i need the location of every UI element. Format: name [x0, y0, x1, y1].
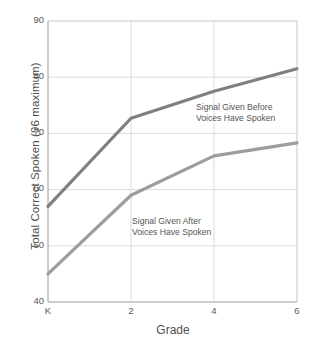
annotation-after-line1: Signal Given After: [132, 216, 201, 226]
line-chart: Total Correct Spoken (96 maximum) 90 80 …: [0, 0, 310, 345]
annotation-after-line2: Voices Have Spoken: [132, 227, 211, 237]
x-axis-title: Grade: [48, 323, 298, 337]
series-line-signal-after: [48, 143, 297, 274]
plot-area: [0, 0, 310, 345]
annotation-before-line1: Signal Given Before: [196, 102, 272, 112]
annotation-signal-after: Signal Given AfterVoices Have Spoken: [132, 216, 211, 237]
annotation-before-line2: Voices Have Spoken: [196, 113, 275, 123]
series-line-signal-before: [48, 69, 297, 207]
annotation-signal-before: Signal Given BeforeVoices Have Spoken: [196, 102, 275, 123]
